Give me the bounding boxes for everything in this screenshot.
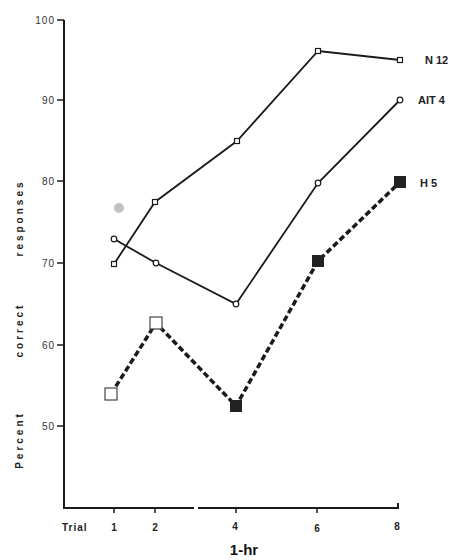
svg-text:correct: correct (14, 303, 25, 358)
svg-text:responses: responses (14, 179, 25, 256)
svg-text:50: 50 (42, 421, 55, 432)
svg-text:Percent: Percent (14, 411, 25, 469)
x-axis-title: 1-hr (230, 541, 259, 558)
series-ait4: AIT 4 (111, 94, 446, 307)
y-ticks (57, 20, 64, 426)
svg-text:6: 6 (314, 523, 320, 534)
svg-text:60: 60 (42, 340, 55, 351)
y-axis-title: Percent correct responses (14, 179, 25, 468)
series-n12: N 12 (112, 49, 449, 267)
series-h5: H 5 (105, 176, 437, 412)
series-label-h5: H 5 (420, 177, 437, 189)
svg-text:1: 1 (111, 522, 117, 533)
scan-smudge (114, 203, 124, 213)
line-chart: 100 90 80 70 60 50 Percent correct respo… (0, 0, 456, 560)
x-tick-labels: Trial 1 2 4 6 8 (62, 521, 400, 534)
svg-text:2: 2 (152, 522, 158, 533)
svg-text:100: 100 (35, 15, 55, 26)
svg-text:80: 80 (42, 176, 55, 187)
svg-text:4: 4 (232, 521, 238, 532)
series-label-ait4: AIT 4 (418, 94, 446, 106)
svg-text:70: 70 (42, 258, 55, 269)
y-tick-labels: 100 90 80 70 60 50 (35, 15, 55, 432)
svg-text:90: 90 (42, 95, 55, 106)
svg-text:8: 8 (394, 521, 400, 532)
series-label-n12: N 12 (425, 54, 448, 66)
svg-text:Trial: Trial (62, 522, 88, 533)
